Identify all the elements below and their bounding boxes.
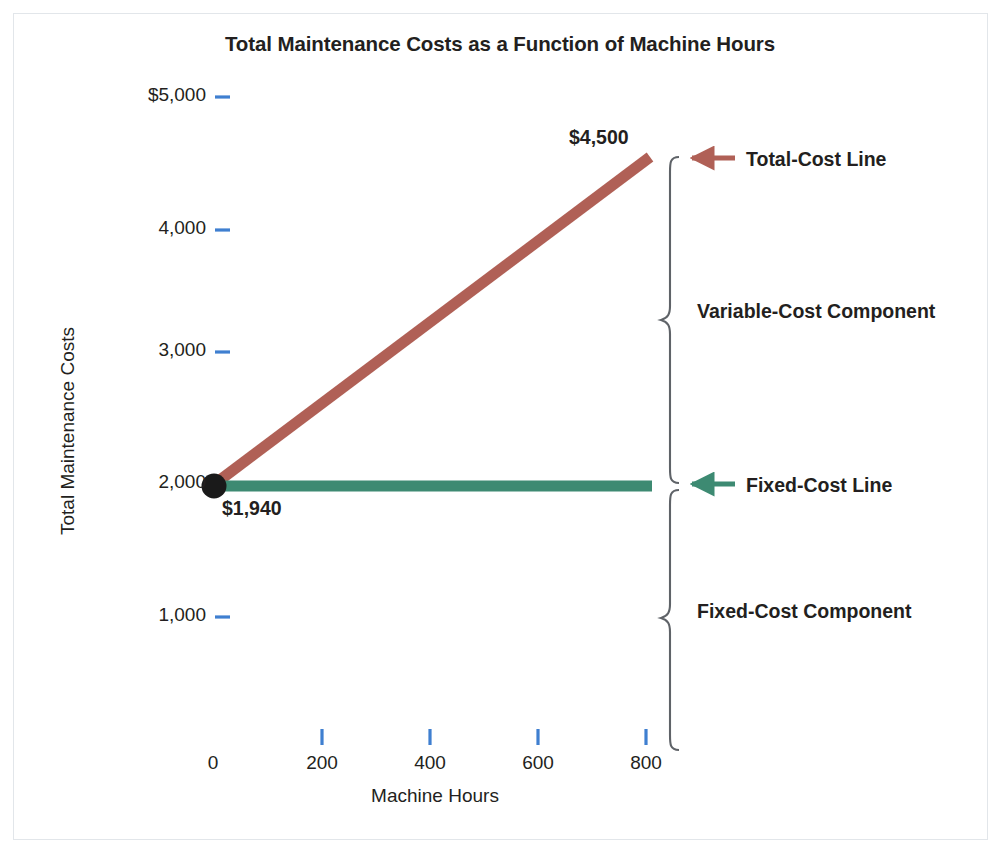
plot-area — [0, 0, 1000, 853]
y-tick-label-4000: 4,000 — [76, 217, 206, 239]
fixed-cost-brace — [661, 490, 679, 750]
annotation-total-cost-line: Total-Cost Line — [746, 148, 886, 171]
x-axis-ticks — [322, 729, 646, 745]
chart-figure: Total Maintenance Costs as a Function of… — [0, 0, 1000, 853]
top-value-label: $4,500 — [569, 126, 629, 149]
x-tick-label-400: 400 — [385, 752, 475, 774]
y-tick-label-5000: $5,000 — [76, 84, 206, 106]
total-cost-line — [212, 157, 650, 486]
y-tick-label-3000: 3,000 — [76, 339, 206, 361]
x-tick-label-0: 0 — [168, 752, 258, 774]
annotation-fixed-cost-component: Fixed-Cost Component — [697, 600, 912, 623]
y-tick-label-2000: 2,000 — [76, 471, 206, 493]
y-axis-ticks — [215, 97, 230, 617]
x-tick-label-200: 200 — [277, 752, 367, 774]
x-tick-label-600: 600 — [493, 752, 583, 774]
annotation-variable-cost-component: Variable-Cost Component — [697, 300, 935, 323]
x-axis-title: Machine Hours — [215, 785, 655, 807]
annotation-fixed-cost-line: Fixed-Cost Line — [746, 474, 892, 497]
variable-cost-brace — [661, 157, 679, 483]
y-axis-title: Total Maintenance Costs — [57, 301, 79, 561]
x-tick-label-800: 800 — [601, 752, 691, 774]
y-tick-label-1000: 1,000 — [76, 604, 206, 626]
intercept-value-label: $1,940 — [222, 497, 282, 520]
